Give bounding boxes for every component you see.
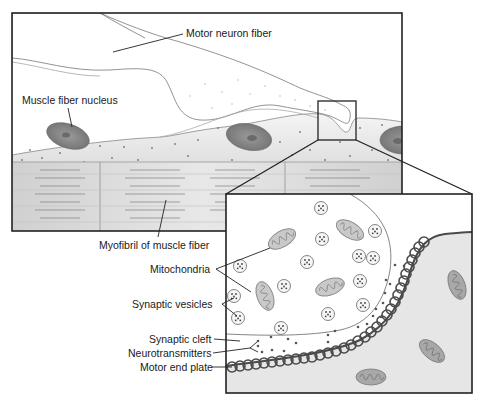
svg-text:Myofibril of muscle fiber: Myofibril of muscle fiber: [99, 239, 210, 251]
label-synaptic-vesicles: Synaptic vesicles: [132, 298, 237, 316]
neuromuscular-junction-diagram: Motor neuron fiber Muscle fiber nucleus …: [0, 0, 486, 404]
svg-text:Muscle fiber nucleus: Muscle fiber nucleus: [22, 94, 118, 106]
label-motor-end-plate: Motor end plate: [140, 361, 232, 373]
svg-text:Neurotransmitters: Neurotransmitters: [128, 347, 211, 359]
svg-text:Mitochondria: Mitochondria: [150, 263, 210, 275]
svg-text:Motor neuron fiber: Motor neuron fiber: [186, 27, 272, 39]
inset-panel: [226, 194, 472, 393]
svg-text:Motor end plate: Motor end plate: [140, 361, 213, 373]
svg-text:Synaptic cleft: Synaptic cleft: [149, 333, 212, 345]
svg-text:Synaptic vesicles: Synaptic vesicles: [132, 298, 213, 310]
muscle-fiber-nucleus-3: [380, 126, 428, 154]
